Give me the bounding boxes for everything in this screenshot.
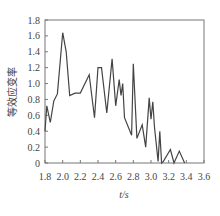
y-axis-title: 等效应变率 [6, 67, 18, 117]
x-axis-title: t/s [119, 189, 129, 200]
x-tick-label: 3.4 [180, 171, 193, 182]
x-tick-label: 3.2 [162, 171, 175, 182]
x-tick-label: 3.6 [198, 171, 211, 182]
y-tick-label: 0.6 [28, 110, 41, 121]
strain-rate-line [45, 33, 185, 163]
x-tick-label: 1.8 [39, 171, 52, 182]
x-tick-label: 2.4 [92, 171, 105, 182]
x-tick-label: 2.8 [127, 171, 140, 182]
x-tick-label: 2.0 [56, 171, 69, 182]
x-tick-label: 2.2 [74, 171, 87, 182]
plot-area [45, 20, 204, 163]
x-axis-tick-labels: 1.82.02.22.42.62.83.03.23.43.6 [39, 171, 211, 182]
y-tick-label: 0.8 [28, 94, 41, 105]
y-tick-label: 1.6 [28, 30, 41, 41]
y-tick-label: 1.4 [28, 46, 41, 57]
y-tick-label: 0 [35, 158, 40, 169]
line-chart: 1.82.02.22.42.62.83.03.23.43.6 00.20.40.… [0, 0, 220, 216]
y-tick-label: 1.8 [28, 15, 41, 26]
y-axis-tick-labels: 00.20.40.60.81.01.21.41.61.8 [28, 15, 41, 169]
y-tick-label: 1.0 [28, 78, 41, 89]
y-tick-label: 1.2 [28, 62, 41, 73]
y-tick-label: 0.4 [28, 126, 41, 137]
x-tick-label: 2.6 [109, 171, 122, 182]
y-tick-label: 0.2 [28, 142, 41, 153]
x-tick-label: 3.0 [145, 171, 158, 182]
